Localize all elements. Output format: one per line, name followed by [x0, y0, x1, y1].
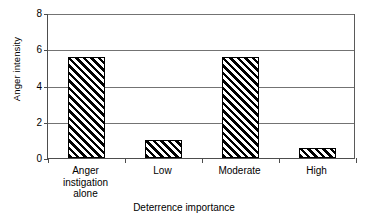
x-tick-mark: [279, 158, 280, 163]
y-tick-mark: [44, 87, 48, 88]
y-axis-title: Anger intensity: [10, 19, 24, 119]
x-tick-mark: [125, 158, 126, 163]
y-tick-label: 2: [26, 118, 42, 128]
plot-area: [47, 14, 355, 159]
bar: [145, 140, 182, 158]
bar: [299, 148, 336, 158]
y-tick-label: 8: [26, 9, 42, 19]
bar: [68, 57, 105, 158]
x-tick-mark: [202, 158, 203, 163]
y-tick-mark: [44, 50, 48, 51]
x-axis-category-label: High: [267, 165, 367, 177]
bar: [222, 57, 259, 159]
gridline: [48, 14, 354, 15]
gridline: [48, 50, 354, 51]
y-tick-mark: [44, 14, 48, 15]
bar-chart: Anger intensity 8 6 4 2 0 Deterrence imp…: [0, 0, 368, 224]
x-tick-mark: [48, 158, 49, 163]
x-axis-title: Deterrence importance: [0, 202, 368, 213]
x-tick-mark: [356, 158, 357, 163]
y-tick-label: 4: [26, 82, 42, 92]
y-tick-label: 6: [26, 45, 42, 55]
y-tick-mark: [44, 123, 48, 124]
y-tick-label: 0: [26, 154, 42, 164]
